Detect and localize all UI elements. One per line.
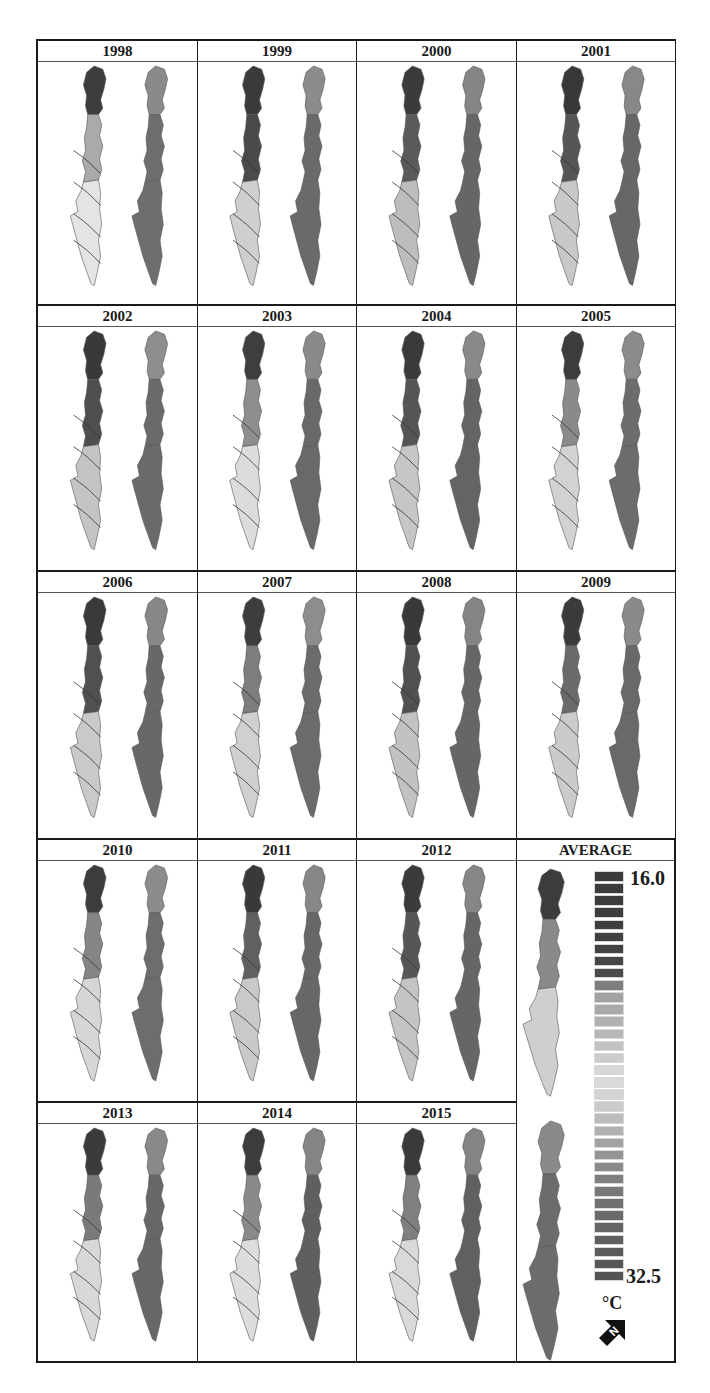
panel-title: 2004 bbox=[357, 306, 516, 327]
legend-swatch bbox=[594, 1271, 624, 1282]
legend-swatch bbox=[594, 980, 624, 991]
map-panel-2002: 2002 bbox=[36, 306, 198, 572]
map-panel-2009: 2009 bbox=[517, 572, 676, 840]
temperature-maps bbox=[357, 1124, 517, 1360]
map-panel-1998: 1998 bbox=[36, 39, 198, 306]
panel-title: 1998 bbox=[38, 41, 197, 62]
legend-swatch bbox=[594, 1113, 624, 1124]
panel-title: 2015 bbox=[357, 1103, 516, 1124]
legend-swatch bbox=[594, 1259, 624, 1270]
panel-title: 2005 bbox=[517, 306, 675, 327]
map-panel-2015: 2015 bbox=[357, 1103, 517, 1363]
temperature-maps bbox=[198, 861, 357, 1100]
temperature-maps bbox=[38, 861, 200, 1100]
legend-swatch bbox=[594, 920, 624, 931]
temperature-maps bbox=[357, 593, 517, 837]
legend-swatch bbox=[594, 992, 624, 1003]
panel-title: 2001 bbox=[517, 41, 675, 62]
legend-swatch bbox=[594, 1053, 624, 1064]
temperature-maps bbox=[38, 593, 200, 837]
temperature-maps bbox=[198, 593, 357, 837]
map-panel-2010: 2010 bbox=[36, 840, 198, 1103]
panel-title: 2014 bbox=[198, 1103, 356, 1124]
panel-title: AVERAGE bbox=[517, 840, 674, 861]
temperature-maps bbox=[517, 327, 676, 569]
legend-swatch bbox=[594, 1126, 624, 1137]
legend-swatch bbox=[594, 1235, 624, 1246]
map-panel-2004: 2004 bbox=[357, 306, 517, 572]
legend-swatch bbox=[594, 1089, 624, 1100]
temperature-maps bbox=[198, 1124, 357, 1360]
legend-swatch bbox=[594, 1004, 624, 1015]
panel-title: 2012 bbox=[357, 840, 516, 861]
north-arrow-icon: N bbox=[595, 1316, 629, 1350]
temperature-maps bbox=[357, 861, 517, 1100]
legend-swatch bbox=[594, 1065, 624, 1076]
panel-title: 2003 bbox=[198, 306, 356, 327]
panel-title: 2011 bbox=[198, 840, 356, 861]
panel-title: 2008 bbox=[357, 572, 516, 593]
legend-swatch bbox=[594, 1077, 624, 1088]
panel-title: 2006 bbox=[38, 572, 197, 593]
average-panel: AVERAGE 16.0 32.5 °C N bbox=[517, 840, 676, 1363]
legend-swatch bbox=[594, 1247, 624, 1258]
legend-swatch bbox=[594, 1029, 624, 1040]
map-panel-2013: 2013 bbox=[36, 1103, 198, 1363]
legend-swatch bbox=[594, 1162, 624, 1173]
map-panel-2007: 2007 bbox=[198, 572, 357, 840]
legend-swatch bbox=[594, 968, 624, 979]
legend-swatch bbox=[594, 1222, 624, 1233]
legend-max-label: 32.5 bbox=[626, 1265, 661, 1288]
map-panel-2003: 2003 bbox=[198, 306, 357, 572]
panel-title: 2002 bbox=[38, 306, 197, 327]
legend-swatch bbox=[594, 944, 624, 955]
legend-swatch bbox=[594, 1138, 624, 1149]
temperature-maps bbox=[198, 327, 357, 569]
legend-swatch bbox=[594, 1016, 624, 1027]
legend-swatch bbox=[594, 1101, 624, 1112]
legend-swatch bbox=[594, 1041, 624, 1052]
map-panel-2005: 2005 bbox=[517, 306, 676, 572]
map-panel-2014: 2014 bbox=[198, 1103, 357, 1363]
panel-title: 2000 bbox=[357, 41, 516, 62]
panel-title: 2013 bbox=[38, 1103, 197, 1124]
panel-title: 2007 bbox=[198, 572, 356, 593]
legend-min-label: 16.0 bbox=[630, 867, 665, 890]
temperature-maps bbox=[38, 1124, 200, 1360]
map-panel-2006: 2006 bbox=[36, 572, 198, 840]
legend-swatch bbox=[594, 1198, 624, 1209]
map-panel-2011: 2011 bbox=[198, 840, 357, 1103]
temperature-maps bbox=[38, 62, 200, 305]
temperature-maps bbox=[517, 62, 676, 305]
legend-swatch bbox=[594, 883, 624, 894]
temperature-maps bbox=[357, 62, 517, 305]
legend-swatch bbox=[594, 871, 624, 882]
legend-unit: °C bbox=[602, 1293, 622, 1314]
legend-swatch bbox=[594, 956, 624, 967]
temperature-maps bbox=[517, 593, 676, 837]
map-panel-1999: 1999 bbox=[198, 39, 357, 306]
panel-title: 2010 bbox=[38, 840, 197, 861]
legend-swatch bbox=[594, 1186, 624, 1197]
panel-title: 1999 bbox=[198, 41, 356, 62]
panel-title: 2009 bbox=[517, 572, 675, 593]
legend-swatch bbox=[594, 895, 624, 906]
temperature-legend bbox=[594, 871, 674, 1331]
legend-swatch bbox=[594, 1150, 624, 1161]
temperature-maps bbox=[38, 327, 200, 569]
legend-swatch bbox=[594, 932, 624, 943]
map-panel-2001: 2001 bbox=[517, 39, 676, 306]
temperature-maps bbox=[357, 327, 517, 569]
legend-swatch bbox=[594, 1174, 624, 1185]
legend-swatch bbox=[594, 1210, 624, 1221]
map-panel-2012: 2012 bbox=[357, 840, 517, 1103]
legend-swatch bbox=[594, 907, 624, 918]
map-panel-2008: 2008 bbox=[357, 572, 517, 840]
map-panel-2000: 2000 bbox=[357, 39, 517, 306]
temperature-maps bbox=[198, 62, 357, 305]
